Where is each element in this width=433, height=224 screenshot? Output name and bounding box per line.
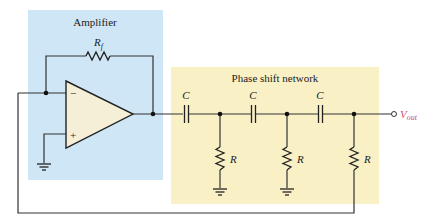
junction-node <box>352 112 357 117</box>
phase-shift-network-label: Phase shift network <box>232 72 319 84</box>
junction-node <box>218 112 223 117</box>
output-terminal <box>392 112 397 117</box>
resistor-label: R <box>296 153 304 165</box>
junction-node <box>285 112 290 117</box>
circuit-diagram: Amplifier Phase shift network Rf − + C C <box>0 0 433 224</box>
junction-node <box>44 91 49 96</box>
capacitor-label: C <box>316 89 324 101</box>
capacitor-label: C <box>182 89 190 101</box>
capacitor-label: C <box>249 89 257 101</box>
resistor-label: R <box>363 153 371 165</box>
noninverting-input-sign: + <box>70 129 76 141</box>
junction-node <box>151 112 156 117</box>
inverting-input-sign: − <box>70 87 76 99</box>
resistor-label: R <box>229 153 237 165</box>
vout-label: Vout <box>400 108 418 122</box>
amplifier-label: Amplifier <box>73 16 117 28</box>
phase-shift-network-block <box>171 67 379 204</box>
